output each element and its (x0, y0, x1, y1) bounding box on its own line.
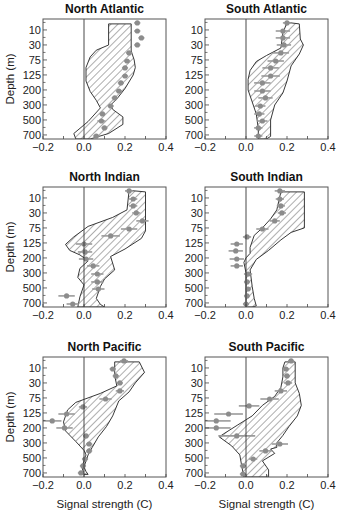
x-tick-label: 0.4 (158, 141, 173, 153)
x-tick-label: 0.2 (117, 479, 132, 491)
observation-point (108, 103, 113, 108)
observation-point (278, 203, 283, 208)
y-tick-label: 300 (23, 437, 41, 449)
panel-title: South Pacific (228, 340, 304, 354)
panel-north-indian: North Indian103075125200300500700−0.20.0… (4, 170, 174, 321)
y-tick-label: 200 (185, 84, 203, 96)
observation-point (102, 125, 107, 130)
observation-point (64, 293, 69, 298)
observation-point (284, 373, 289, 378)
observation-point (226, 411, 231, 416)
observation-point (283, 366, 288, 371)
x-tick-label: 0.4 (320, 141, 335, 153)
x-tick-label: 0.4 (320, 479, 335, 491)
y-tick-label: 125 (23, 237, 41, 249)
panel-title: North Atlantic (65, 2, 144, 16)
y-tick-label: 75 (191, 222, 203, 234)
x-tick-label: 0.0 (238, 479, 253, 491)
observation-point (112, 95, 117, 100)
observation-point (280, 35, 285, 40)
y-tick-label: 500 (185, 452, 203, 464)
y-tick-label: 75 (29, 392, 41, 404)
y-tick-label: 30 (29, 377, 41, 389)
y-tick-label: 10 (29, 362, 41, 374)
observation-point (95, 271, 100, 276)
observation-point (234, 433, 239, 438)
observation-point (246, 403, 251, 408)
observation-point (234, 256, 239, 261)
observation-point (80, 463, 85, 468)
panel-title: South Atlantic (226, 2, 307, 16)
y-tick-label: 30 (191, 39, 203, 51)
y-tick-label: 700 (23, 467, 41, 479)
panel-south-pacific: South Pacific103075125200300500700−0.20.… (185, 340, 336, 510)
observation-point (268, 65, 273, 70)
observation-point (257, 111, 262, 116)
observation-point (127, 226, 132, 231)
y-tick-label: 125 (185, 237, 203, 249)
y-tick-label: 500 (185, 114, 203, 126)
observation-point (258, 103, 263, 108)
x-tick-label: 0.2 (117, 141, 132, 153)
observation-point (122, 65, 127, 70)
observation-point (140, 218, 145, 223)
y-tick-label: 700 (23, 297, 41, 309)
observation-point (278, 388, 283, 393)
y-tick-label: 200 (23, 422, 41, 434)
observation-point (277, 188, 282, 193)
observation-point (124, 58, 129, 63)
observation-point (121, 358, 126, 363)
observation-point (122, 73, 127, 78)
observation-point (267, 396, 272, 401)
y-tick-label: 700 (185, 297, 203, 309)
panel-title: North Indian (69, 170, 140, 184)
observation-point (244, 234, 249, 239)
observation-point (289, 358, 294, 363)
y-tick-label: 10 (191, 362, 203, 374)
y-tick-label: 10 (191, 24, 203, 36)
y-tick-label: 75 (29, 54, 41, 66)
x-tick-label: 0.2 (279, 479, 294, 491)
x-tick-label: 0.4 (158, 309, 173, 321)
y-tick-label: 30 (191, 207, 203, 219)
observation-point (281, 42, 286, 47)
observation-point (214, 425, 219, 430)
y-tick-label: 700 (23, 129, 41, 141)
y-axis-label: Depth (m) (4, 53, 16, 104)
observation-point (95, 279, 100, 284)
y-tick-label: 300 (23, 267, 41, 279)
y-tick-label: 75 (29, 222, 41, 234)
observation-point (277, 196, 282, 201)
observation-point (284, 20, 289, 25)
observation-point (240, 471, 245, 476)
panel-north-atlantic: North Atlantic103075125200300500700−0.20… (4, 2, 174, 153)
figure: North Atlantic103075125200300500700−0.20… (0, 0, 338, 515)
observation-point (233, 248, 238, 253)
x-tick-label: −0.2 (194, 141, 216, 153)
y-tick-label: 500 (23, 452, 41, 464)
observation-point (117, 388, 122, 393)
x-tick-label: 0.0 (76, 309, 91, 321)
y-tick-label: 30 (191, 377, 203, 389)
y-tick-label: 700 (185, 467, 203, 479)
y-tick-label: 30 (29, 207, 41, 219)
observation-point (260, 226, 265, 231)
x-tick-label: 0.0 (76, 479, 91, 491)
observation-point (244, 279, 249, 284)
y-tick-label: 500 (23, 114, 41, 126)
observation-point (127, 50, 132, 55)
y-tick-label: 125 (185, 407, 203, 419)
y-tick-label: 300 (185, 267, 203, 279)
observation-point (113, 373, 118, 378)
panel-title: North Pacific (67, 340, 141, 354)
observation-point (117, 380, 122, 385)
observation-point (110, 366, 115, 371)
observation-point (277, 441, 282, 446)
panel-north-pacific: North Pacific103075125200300500700−0.20.… (4, 340, 174, 510)
x-tick-label: 0.2 (117, 309, 132, 321)
observation-point (134, 210, 139, 215)
model-envelope (219, 362, 301, 477)
observation-point (87, 448, 92, 453)
observation-point (94, 133, 99, 138)
y-tick-label: 30 (29, 39, 41, 51)
